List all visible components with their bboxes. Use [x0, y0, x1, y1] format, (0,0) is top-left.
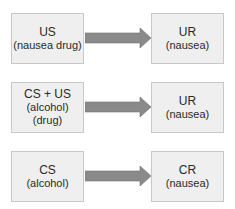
stimulus-box-us: US (nausea drug) [11, 13, 84, 64]
right-arrow-icon [85, 97, 151, 117]
box-label: CS [39, 164, 56, 177]
box-label: CR [179, 164, 196, 177]
box-sublabel: (alcohol) (drug) [12, 101, 83, 127]
stimulus-box-cs-us: CS + US (alcohol) (drug) [11, 82, 84, 133]
right-arrow-icon [85, 28, 151, 48]
box-sublabel: (nausea) [166, 39, 209, 52]
response-box-ur: UR (nausea) [151, 82, 224, 133]
box-sublabel: (nausea) [166, 108, 209, 121]
box-label: CS + US [24, 88, 71, 101]
box-sublabel: (nausea) [166, 177, 209, 190]
box-label: US [39, 26, 56, 39]
box-label: UR [179, 26, 196, 39]
right-arrow-icon [85, 166, 151, 186]
box-sublabel: (alcohol) [26, 177, 68, 190]
stimulus-box-cs: CS (alcohol) [11, 151, 84, 202]
box-label: UR [179, 95, 196, 108]
response-box-ur: UR (nausea) [151, 13, 224, 64]
box-sublabel: (nausea drug) [13, 39, 82, 52]
response-box-cr: CR (nausea) [151, 151, 224, 202]
